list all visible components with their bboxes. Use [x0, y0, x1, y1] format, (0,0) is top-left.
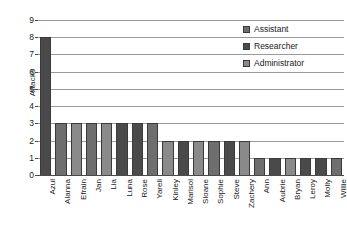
x-axis-label-slot: Azul	[38, 177, 53, 231]
legend-item: Researcher	[243, 38, 343, 55]
legend-item: Assistant	[243, 21, 343, 38]
bar	[269, 158, 280, 175]
bar	[101, 123, 112, 175]
bar	[71, 123, 82, 175]
bar-slot	[130, 20, 145, 175]
y-axis-tick-label: 1	[29, 154, 34, 163]
y-axis-tick-mark	[35, 175, 38, 176]
bar	[285, 158, 296, 175]
gridline	[38, 175, 344, 176]
y-axis-tick-label: 3	[29, 119, 34, 128]
bar	[193, 141, 204, 175]
y-axis-tick-label: 2	[29, 136, 34, 145]
bar	[224, 141, 235, 175]
bar-slot	[53, 20, 68, 175]
x-axis-label-slot: Aubrie	[267, 177, 282, 231]
x-axis-labels: AzulAlannaEfrainJanLiaLunaRoseYareliKinl…	[38, 177, 344, 231]
bar	[116, 123, 127, 175]
legend-label: Administrator	[254, 59, 304, 68]
x-axis-label-slot: Molly	[313, 177, 328, 231]
y-axis-tick-label: 9	[29, 16, 34, 25]
legend-label: Assistant	[254, 25, 289, 34]
bar	[208, 141, 219, 175]
x-axis-label-slot: Jan	[84, 177, 99, 231]
bar	[315, 158, 326, 175]
bar-slot	[114, 20, 129, 175]
bar-slot	[145, 20, 160, 175]
bar	[86, 123, 97, 175]
bar	[300, 158, 311, 175]
bar-chart: Attacks 0123456789 AzulAlannaEfrainJanLi…	[0, 0, 347, 231]
y-axis-tick-label: 0	[29, 171, 34, 180]
y-axis-tick-label: 4	[29, 102, 34, 111]
bar-slot	[222, 20, 237, 175]
x-axis-label-slot: Efrain	[69, 177, 84, 231]
y-axis-tick-label: 7	[29, 50, 34, 59]
bar-slot	[69, 20, 84, 175]
bar	[147, 123, 158, 175]
y-axis-tick-label: 8	[29, 33, 34, 42]
x-axis-label-slot: Leroy	[298, 177, 313, 231]
legend-swatch-icon	[243, 60, 250, 67]
bar-slot	[38, 20, 53, 175]
x-axis-label-slot: Willie	[329, 177, 344, 231]
x-axis-label-slot: Bryan	[283, 177, 298, 231]
bar	[132, 123, 143, 175]
legend-label: Researcher	[254, 42, 298, 51]
y-axis-tick-label: 5	[29, 85, 34, 94]
x-axis-label-slot: Sophie	[206, 177, 221, 231]
bar	[254, 158, 265, 175]
x-axis-label-slot: Steve	[222, 177, 237, 231]
bar-slot	[160, 20, 175, 175]
bar	[178, 141, 189, 175]
x-axis-label-slot: Rose	[130, 177, 145, 231]
x-axis-label-slot: Sloane	[191, 177, 206, 231]
legend-swatch-icon	[243, 43, 250, 50]
x-axis-label-slot: Alanna	[53, 177, 68, 231]
x-axis-tick-label: Willie	[340, 179, 347, 198]
bar-slot	[206, 20, 221, 175]
bar	[331, 158, 342, 175]
x-axis-label-slot: Ann	[252, 177, 267, 231]
x-axis-label-slot: Yareli	[145, 177, 160, 231]
bar-slot	[84, 20, 99, 175]
bar-slot	[191, 20, 206, 175]
chart-legend: AssistantResearcherAdministrator	[243, 21, 343, 72]
bar	[40, 37, 51, 175]
bar-slot	[99, 20, 114, 175]
legend-swatch-icon	[243, 26, 250, 33]
x-axis-label-slot: Lia	[99, 177, 114, 231]
bar	[162, 141, 173, 175]
x-axis-label-slot: Marisol	[176, 177, 191, 231]
x-axis-label-slot: Luna	[114, 177, 129, 231]
legend-item: Administrator	[243, 55, 343, 72]
bar-slot	[176, 20, 191, 175]
x-axis-label-slot: Zachery	[237, 177, 252, 231]
x-axis-label-slot: Kinley	[160, 177, 175, 231]
bar	[55, 123, 66, 175]
y-axis-tick-label: 6	[29, 67, 34, 76]
bar	[239, 141, 250, 175]
